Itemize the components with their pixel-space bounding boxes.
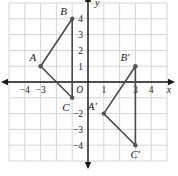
y-tick-label: 2 — [78, 46, 83, 56]
x-tick-label: 4 — [149, 85, 154, 95]
y-tick-label: −3 — [73, 125, 83, 135]
y-tick-label: −4 — [73, 141, 83, 151]
vertex-point — [133, 143, 137, 147]
vertex-label: B′ — [120, 51, 130, 63]
vertex-point — [38, 64, 42, 68]
y-tick-label: 1 — [78, 62, 83, 72]
vertex-point — [70, 96, 74, 100]
x-axis-arrow-left — [1, 79, 8, 85]
coordinate-plane-figure: −4−31344321−2−3−4Oxy ABCA′B′C′ — [0, 0, 178, 176]
tick-labels: −4−31344321−2−3−4Oxy — [20, 0, 172, 151]
vertex-point — [133, 64, 137, 68]
vertex-label: A′ — [87, 100, 98, 112]
vertex-label: C — [62, 101, 70, 113]
x-tick-label: −4 — [20, 85, 30, 95]
vertex-label: A — [29, 51, 37, 63]
y-tick-label: −2 — [73, 109, 83, 119]
y-axis-label: y — [94, 0, 100, 8]
y-tick-label: 4 — [78, 14, 83, 24]
vertex-point — [70, 17, 74, 21]
vertex-label: B — [60, 5, 67, 17]
vertex-point — [102, 111, 106, 115]
coordinate-plot: −4−31344321−2−3−4Oxy ABCA′B′C′ — [0, 0, 178, 176]
x-tick-label: −3 — [36, 85, 46, 95]
y-axis-arrow-down — [85, 162, 91, 169]
origin-label: O — [76, 85, 83, 95]
x-tick-label: 1 — [101, 85, 106, 95]
y-axis-arrow-up — [85, 0, 91, 2]
vertex-label: C′ — [130, 148, 140, 160]
y-tick-label: 3 — [78, 30, 83, 40]
x-axis-label: x — [166, 84, 172, 95]
